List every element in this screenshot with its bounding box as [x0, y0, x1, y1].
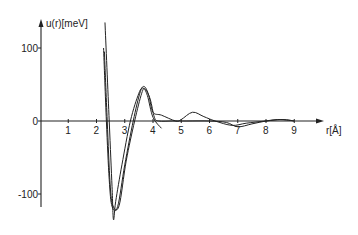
y-tick-label: 100: [21, 43, 38, 54]
y-tick-label: -100: [18, 189, 38, 200]
x-tick-label: 3: [122, 125, 128, 136]
potential-chart: 1234567891000-100 u(r)[meV] r[Å]: [0, 0, 358, 235]
x-tick-label: 1: [65, 125, 71, 136]
x-axis-label: r[Å]: [326, 124, 342, 136]
x-tick-label: 6: [207, 125, 213, 136]
axes: [39, 19, 325, 207]
y-tick-label: 0: [32, 116, 38, 127]
x-tick-label: 2: [94, 125, 100, 136]
x-tick-label: 8: [263, 125, 269, 136]
x-tick-label: 9: [291, 125, 297, 136]
y-axis-label: u(r)[meV]: [46, 18, 88, 29]
x-tick-label: 4: [150, 125, 156, 136]
y-axis-arrow-icon: [39, 19, 44, 27]
x-axis-arrow-icon: [316, 119, 324, 124]
x-tick-label: 5: [178, 125, 184, 136]
